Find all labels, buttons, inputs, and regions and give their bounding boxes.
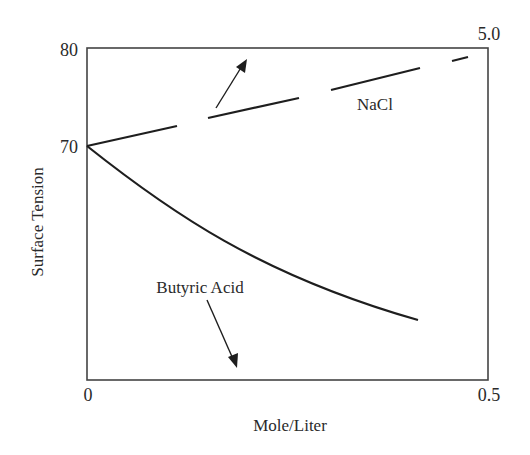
y-axis-label: Surface Tension [28, 167, 47, 277]
surface-tension-chart: NaCl Butyric Acid 80 70 0 0.5 5.0 Mole/L… [0, 0, 530, 455]
y-tick-70: 70 [60, 137, 78, 157]
butyric-down-arrow-icon [207, 300, 238, 368]
plot-frame [87, 48, 488, 380]
x-tick-0-5: 0.5 [478, 385, 501, 405]
nacl-up-arrow-icon [216, 59, 247, 108]
x-axis-label: Mole/Liter [253, 416, 327, 435]
y-tick-80: 80 [60, 40, 78, 60]
nacl-line [87, 57, 468, 146]
nacl-label: NaCl [357, 95, 393, 114]
butyric-acid-label: Butyric Acid [156, 278, 244, 297]
x-tick-0: 0 [84, 385, 93, 405]
butyric-acid-curve [87, 146, 418, 320]
top-scale-tick-5: 5.0 [478, 24, 501, 44]
